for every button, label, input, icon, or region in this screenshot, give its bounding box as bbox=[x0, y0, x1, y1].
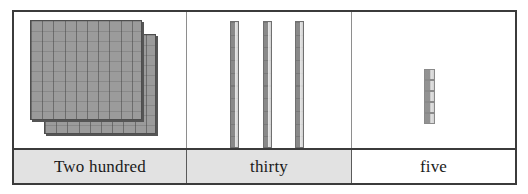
unit-cube-block bbox=[424, 113, 435, 124]
ten-rod-block bbox=[230, 21, 239, 148]
ten-rod-block bbox=[263, 21, 272, 148]
unit-cube-block bbox=[424, 102, 435, 113]
hundreds-label-cell: Two hundred bbox=[14, 150, 186, 183]
unit-cube-block bbox=[424, 80, 435, 91]
unit-cube-block bbox=[424, 91, 435, 102]
labels-row: Two hundred thirty five bbox=[14, 150, 515, 183]
hundreds-flat-stack bbox=[30, 20, 170, 142]
unit-cube-block bbox=[424, 69, 435, 80]
hundreds-blocks-cell bbox=[14, 12, 186, 148]
hundred-flat-block bbox=[30, 20, 142, 120]
blocks-row bbox=[14, 12, 515, 150]
tens-label-cell: thirty bbox=[186, 150, 351, 183]
ones-cube-stack bbox=[424, 69, 435, 124]
ten-rod-block bbox=[295, 21, 304, 148]
place-value-table: Two hundred thirty five bbox=[12, 10, 517, 185]
tens-blocks-cell bbox=[186, 12, 351, 148]
ones-label-cell: five bbox=[351, 150, 515, 183]
ones-blocks-cell bbox=[351, 12, 515, 148]
